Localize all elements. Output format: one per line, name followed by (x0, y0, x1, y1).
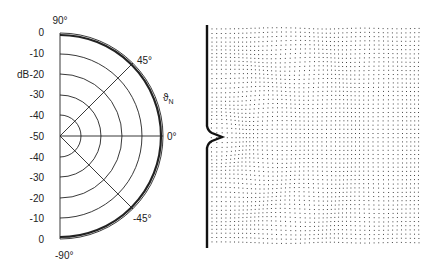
label-0: 0° (167, 131, 177, 142)
angle-symbol: ϑN (163, 92, 174, 105)
wall-with-notch (207, 25, 222, 248)
minus-45-degree-line (60, 136, 133, 209)
tick-10-top: -10 (30, 48, 45, 59)
label-90: 90° (52, 15, 67, 26)
tick-30-bottom: -30 (30, 172, 45, 183)
label-minus-90: -90° (55, 250, 73, 261)
label-minus-45: -45° (133, 213, 151, 224)
unit-label: dB (17, 69, 30, 80)
tick-50: -50 (30, 131, 45, 142)
tick-20-top: -20 (30, 69, 45, 80)
45-degree-line (60, 63, 133, 136)
tick-40-top: -40 (30, 110, 45, 121)
tick-0-top: 0 (38, 27, 44, 38)
figure: 90° 0 -10 -20 -30 -40 -50 -40 -30 -20 -1… (0, 0, 435, 271)
tick-20-bottom: -20 (30, 193, 45, 204)
tick-10-bottom: -10 (30, 213, 45, 224)
tick-30-top: -30 (30, 89, 45, 100)
wave-field-dots (211, 27, 420, 244)
tick-40-bottom: -40 (30, 152, 45, 163)
label-45: 45° (137, 55, 152, 66)
polar-labels: 90° 0 -10 -20 -30 -40 -50 -40 -30 -20 -1… (17, 15, 177, 261)
tick-0-bottom: 0 (38, 234, 44, 245)
